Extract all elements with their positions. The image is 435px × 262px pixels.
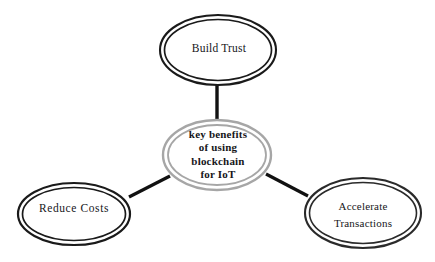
node-build-trust[interactable] <box>160 15 276 85</box>
diagram-canvas: Build Trust Reduce Costs Accelerate Tran… <box>0 0 435 262</box>
node-build-trust-inner-ellipse <box>165 20 272 81</box>
concept-map-graphic <box>0 0 435 262</box>
node-accelerate-transactions-inner-ellipse <box>310 183 417 244</box>
node-key-benefits-inner-ellipse <box>168 125 266 185</box>
node-accelerate-transactions[interactable] <box>305 178 421 248</box>
node-key-benefits[interactable] <box>163 120 271 190</box>
connector-center-reduce-costs <box>129 176 170 197</box>
connector-center-accelerate-transactions <box>266 174 308 196</box>
node-reduce-costs[interactable] <box>18 183 130 245</box>
node-reduce-costs-inner-ellipse <box>23 188 126 241</box>
